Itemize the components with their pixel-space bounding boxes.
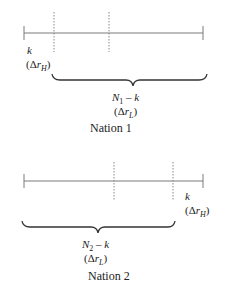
nation2-delta-rl-label: (ΔrL) bbox=[84, 252, 107, 269]
delta-open: (Δ bbox=[185, 204, 196, 216]
nation1-k-label: k bbox=[27, 44, 32, 56]
nation1-caption: Nation 1 bbox=[90, 122, 132, 134]
nation1-delta-rh-label: (ΔrH) bbox=[26, 58, 50, 75]
delta-open: (Δ bbox=[26, 58, 37, 70]
nation1-number-line bbox=[24, 12, 203, 52]
delta-open: (Δ bbox=[114, 105, 125, 117]
paren-close: ) bbox=[206, 204, 210, 216]
paren-close: ) bbox=[47, 58, 51, 70]
minus-k: – k bbox=[123, 91, 139, 103]
nation2-number-line bbox=[24, 162, 203, 200]
minus-k: – k bbox=[93, 238, 109, 250]
diagram-canvas bbox=[0, 0, 231, 297]
nation2-delta-rh-label: (ΔrH) bbox=[185, 204, 209, 221]
paren-close: ) bbox=[133, 105, 137, 117]
nation1-brace bbox=[52, 74, 207, 86]
nation2-caption: Nation 2 bbox=[88, 270, 130, 282]
delta-open: (Δ bbox=[84, 252, 95, 264]
paren-close: ) bbox=[103, 252, 107, 264]
nation1-delta-rl-label: (ΔrL) bbox=[114, 105, 137, 122]
nation2-brace bbox=[22, 221, 175, 233]
nation2-k-label: k bbox=[185, 190, 190, 202]
